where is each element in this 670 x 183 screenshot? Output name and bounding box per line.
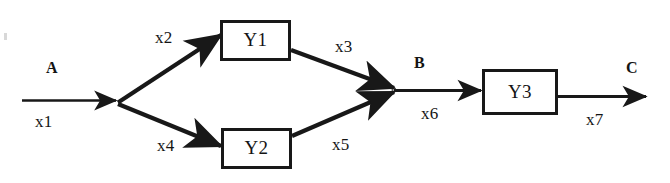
block-y3[interactable]: Y3 [482, 69, 558, 115]
signal-label-x6: x6 [421, 105, 438, 122]
diagram-canvas: Y1 Y2 Y3 A B C x1 x2 x3 x4 x5 x6 x7 [0, 0, 670, 183]
diagram-edges [0, 0, 670, 183]
signal-label-x7: x7 [586, 111, 603, 128]
block-y3-label: Y3 [508, 82, 532, 101]
block-y1[interactable]: Y1 [220, 20, 291, 61]
block-y2[interactable]: Y2 [221, 128, 292, 169]
signal-label-x1: x1 [35, 113, 52, 130]
edge-x5 [292, 92, 394, 136]
signal-label-x5: x5 [332, 136, 349, 153]
signal-label-x4: x4 [157, 137, 174, 154]
terminal-label-b: B [414, 55, 425, 71]
terminal-label-c: C [626, 60, 638, 76]
signal-label-x3: x3 [335, 38, 352, 55]
block-y1-label: Y1 [244, 30, 268, 49]
terminal-label-a: A [46, 60, 58, 76]
signal-label-x2: x2 [155, 29, 172, 46]
block-y2-label: Y2 [245, 138, 269, 157]
